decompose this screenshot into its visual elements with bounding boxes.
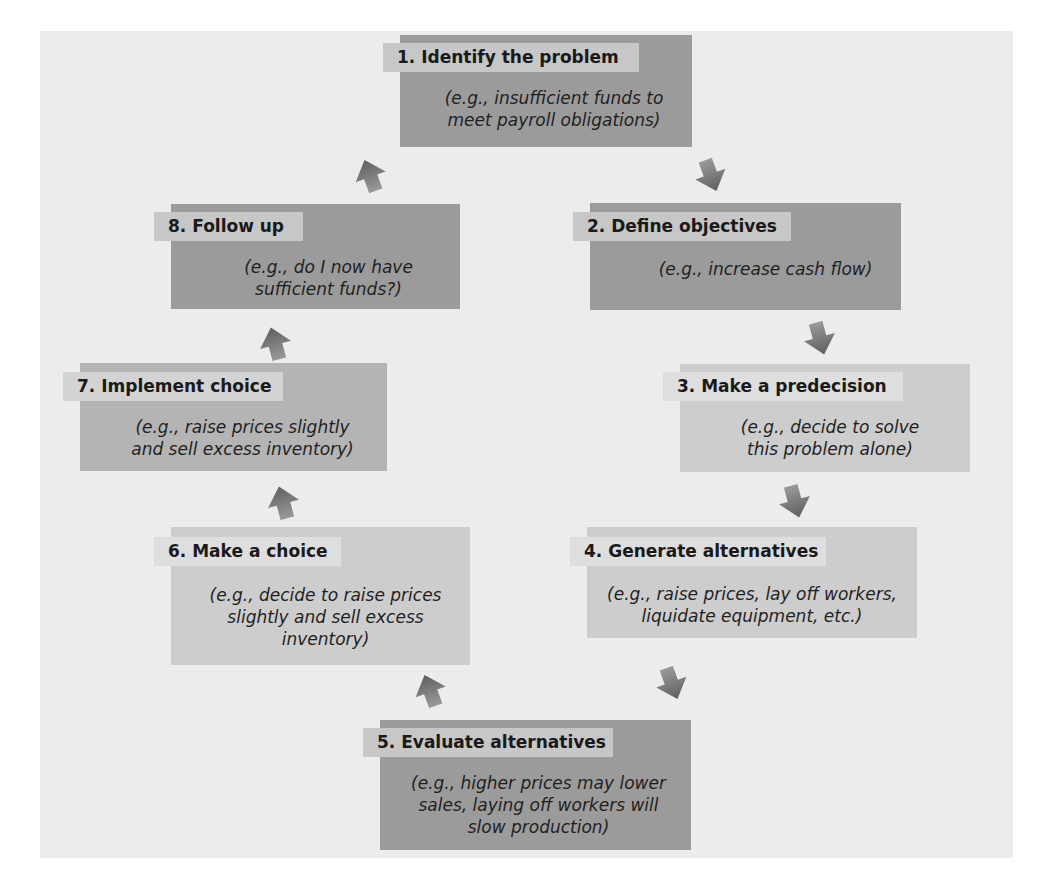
step-7-implement-choice: 7. Implement choice (e.g., raise prices … [80,363,387,471]
step-title: 2. Define objectives [573,212,791,241]
step-8-follow-up: 8. Follow up (e.g., do I now have suffic… [171,204,460,309]
step-6-make-choice: 6. Make a choice (e.g., decide to raise … [171,527,470,665]
step-example: (e.g., decide to raise prices slightly a… [171,584,470,650]
example-line: (e.g., higher prices may lower [386,772,691,794]
step-example: (e.g., raise prices slightly and sell ex… [80,416,387,460]
example-line: (e.g., decide to solve [690,416,970,438]
step-title: 6. Make a choice [154,537,341,566]
example-line: (e.g., increase cash flow) [630,258,901,280]
step-title: 5. Evaluate alternatives [363,728,613,757]
step-title: 8. Follow up [154,212,303,241]
example-line: liquidate equipment, etc.) [587,605,917,627]
example-line: (e.g., raise prices, lay off workers, [587,583,917,605]
example-line: sufficient funds?) [197,278,460,300]
step-example: (e.g., increase cash flow) [590,258,901,280]
example-line: (e.g., raise prices slightly [98,416,387,438]
example-line: slightly and sell excess [181,606,470,628]
step-title: 3. Make a predecision [663,372,903,401]
example-line: inventory) [181,628,470,650]
step-3-make-predecision: 3. Make a predecision (e.g., decide to s… [680,364,970,472]
step-example: (e.g., do I now have sufficient funds?) [171,256,460,300]
example-line: this problem alone) [690,438,970,460]
step-2-define-objectives: 2. Define objectives (e.g., increase cas… [590,203,901,310]
step-1-identify-problem: 1. Identify the problem (e.g., insuffici… [400,35,692,147]
example-line: (e.g., insufficient funds to [416,87,692,109]
step-title: 7. Implement choice [63,372,283,401]
step-title: 1. Identify the problem [383,43,639,72]
example-line: meet payroll obligations) [416,109,692,131]
example-line: sales, laying off workers will [386,794,691,816]
example-line: slow production) [386,816,691,838]
step-title: 4. Generate alternatives [570,537,826,566]
example-line: and sell excess inventory) [98,438,387,460]
step-example: (e.g., insufficient funds to meet payrol… [400,87,692,131]
step-example: (e.g., raise prices, lay off workers, li… [587,583,917,627]
step-example: (e.g., higher prices may lower sales, la… [380,772,691,838]
example-line: (e.g., decide to raise prices [181,584,470,606]
example-line: (e.g., do I now have [197,256,460,278]
step-example: (e.g., decide to solve this problem alon… [680,416,970,460]
step-5-evaluate-alternatives: 5. Evaluate alternatives (e.g., higher p… [380,720,691,850]
step-4-generate-alternatives: 4. Generate alternatives (e.g., raise pr… [587,527,917,638]
